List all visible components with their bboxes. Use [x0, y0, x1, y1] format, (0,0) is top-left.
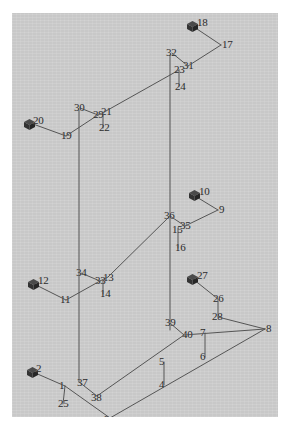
node-label-6: 6 [200, 351, 205, 362]
wireframe-lines [12, 13, 278, 417]
node-label-14: 14 [100, 288, 111, 299]
node-label-38: 38 [91, 392, 102, 403]
node-label-11: 11 [60, 294, 70, 305]
node-label-27: 27 [197, 270, 208, 281]
node-label-3: 3 [104, 414, 109, 417]
node-label-25: 25 [58, 398, 69, 409]
node-label-40: 40 [182, 329, 193, 340]
node-label-22: 22 [99, 122, 110, 133]
node-label-5: 5 [159, 356, 164, 367]
node-label-28: 28 [212, 311, 223, 322]
node-label-2: 2 [36, 363, 41, 374]
node-label-36: 36 [164, 210, 175, 221]
node-label-7: 7 [200, 327, 205, 338]
diagram-panel: 1 2 3 4 5 6 7 8 9 10 11 12 13 14 15 16 1… [12, 13, 278, 417]
node-label-17: 17 [222, 39, 233, 50]
node-label-1: 1 [59, 380, 64, 391]
node-label-33: 33 [95, 275, 106, 286]
node-label-37: 37 [77, 377, 88, 388]
edge-28-8 [218, 317, 265, 329]
node-label-12: 12 [38, 275, 49, 286]
edge-13-36 [108, 216, 170, 277]
node-label-26: 26 [213, 293, 224, 304]
node-label-34: 34 [76, 267, 87, 278]
node-label-39: 39 [165, 317, 176, 328]
node-label-16: 16 [175, 242, 186, 253]
node-label-4: 4 [159, 379, 164, 390]
node-label-24: 24 [175, 81, 186, 92]
node-label-35: 35 [180, 220, 191, 231]
node-label-10: 10 [199, 186, 210, 197]
edge-40-8 [184, 329, 265, 335]
node-label-20: 20 [33, 115, 44, 126]
node-label-32: 32 [166, 47, 177, 58]
edge-21-23 [106, 70, 179, 111]
node-label-18: 18 [197, 17, 208, 28]
node-label-8: 8 [266, 323, 271, 334]
node-label-9: 9 [219, 204, 224, 215]
edge-3-8 [110, 329, 265, 417]
edge-38-40 [97, 335, 184, 396]
node-label-31: 31 [183, 60, 194, 71]
node-label-29: 29 [93, 109, 104, 120]
figure-canvas: 1 2 3 4 5 6 7 8 9 10 11 12 13 14 15 16 1… [0, 0, 290, 438]
node-label-30: 30 [74, 102, 85, 113]
node-label-19: 19 [61, 130, 72, 141]
